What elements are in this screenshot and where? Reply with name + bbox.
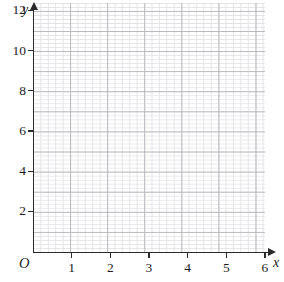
x-axis-tick (264, 253, 265, 259)
graph-paper-grid (33, 3, 265, 252)
y-axis-tick (28, 171, 34, 172)
x-axis-line (33, 252, 272, 253)
origin-label: O (19, 256, 29, 271)
y-axis-tick-label: 6 (0, 124, 26, 138)
y-axis-tick-label: 8 (0, 84, 26, 98)
x-axis-tick-label: 2 (95, 261, 125, 275)
x-axis-tick (187, 253, 188, 259)
x-axis-tick-label: 4 (173, 261, 203, 275)
y-axis-tick-label: 4 (0, 164, 26, 178)
x-axis-tick-label: 3 (134, 261, 164, 275)
x-axis-tick (226, 253, 227, 259)
x-axis-tick-label: 1 (57, 261, 87, 275)
x-axis-tick-label: 5 (211, 261, 241, 275)
x-axis-tick (148, 253, 149, 259)
x-axis-tick (110, 253, 111, 259)
x-axis-label: x (273, 256, 279, 270)
y-axis-tick-label: 2 (0, 204, 26, 218)
y-axis-tick-label: 10 (0, 44, 26, 58)
y-axis-tick (28, 10, 34, 11)
graph-figure: 24681012 123456 y x O (0, 0, 284, 282)
y-axis-tick (28, 90, 34, 91)
y-axis-tick (28, 130, 34, 131)
y-axis-tick (28, 50, 34, 51)
plot-area (33, 3, 265, 252)
y-axis-tick (28, 211, 34, 212)
y-axis-label: y (22, 3, 28, 17)
y-axis-arrow-icon (30, 2, 38, 10)
x-axis-tick (71, 253, 72, 259)
